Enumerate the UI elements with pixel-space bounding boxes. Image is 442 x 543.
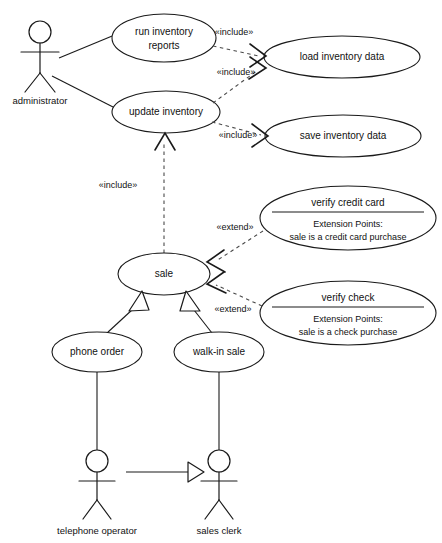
use-case-load-inventory-data[interactable]: load inventory data	[264, 36, 420, 78]
extension-points-title: Extension Points:	[313, 314, 383, 324]
include-line-run-reports-to-load-data	[213, 46, 259, 56]
diagram-canvas: administrator run inventory reports load…	[0, 0, 442, 543]
actor-administrator[interactable]: administrator	[13, 21, 68, 106]
use-case-label: save inventory data	[300, 130, 387, 141]
use-case-phone-order[interactable]: phone order	[52, 332, 142, 372]
use-case-run-inventory-reports[interactable]: run inventory reports	[112, 14, 216, 62]
generalization-arrowhead-walk-in-sale	[180, 291, 200, 311]
stereotype-label-extend-credit-card: «extend»	[216, 222, 253, 232]
extension-points-body: sale is a check purchase	[299, 327, 398, 337]
association-admin-to-run-reports	[59, 34, 117, 58]
use-case-save-inventory-data[interactable]: save inventory data	[265, 115, 421, 157]
use-case-label: verify check	[322, 292, 376, 303]
actor-leg-left	[205, 500, 219, 519]
use-case-verify-credit-card[interactable]: verify credit card Extension Points: sal…	[260, 186, 436, 250]
actor-label-telephone-operator: telephone operator	[57, 525, 137, 536]
include-arrowhead-run-reports	[250, 44, 266, 67]
actor-label-sales-clerk: sales clerk	[197, 525, 242, 536]
actor-leg-left	[25, 73, 40, 92]
use-case-sale[interactable]: sale	[118, 253, 210, 295]
use-case-label: walk-in sale	[192, 346, 246, 357]
actor-leg-right	[97, 500, 111, 519]
include-arrowhead-sale-to-update	[155, 133, 175, 150]
use-case-label: verify credit card	[311, 197, 384, 208]
stereotype-label-include-sale-update: «include»	[99, 180, 138, 190]
actor-leg-right	[219, 500, 233, 519]
extension-points-body: sale is a credit card purchase	[289, 232, 406, 242]
stereotype-label-include-save-inventory: «include»	[219, 130, 258, 140]
actor-head-icon	[29, 21, 51, 43]
use-case-label: update inventory	[129, 106, 203, 117]
use-case-verify-check[interactable]: verify check Extension Points: sale is a…	[260, 281, 436, 345]
use-case-walk-in-sale[interactable]: walk-in sale	[174, 332, 264, 372]
stereotype-label-include-run-reports: «include»	[215, 27, 254, 37]
generalization-arrowhead-phone-order	[129, 291, 149, 311]
actor-label-administrator: administrator	[13, 95, 68, 106]
use-case-ellipse	[112, 14, 216, 62]
generalization-arrowhead-sales-clerk	[188, 462, 204, 482]
extend-arrowhead-credit-card	[207, 250, 225, 272]
actor-head-icon	[86, 450, 108, 472]
use-case-label: phone order	[70, 346, 125, 357]
uml-use-case-diagram: administrator run inventory reports load…	[0, 0, 442, 543]
actor-head-icon	[208, 450, 230, 472]
actor-sales-clerk[interactable]: sales clerk	[197, 450, 242, 536]
stereotype-label-extend-check: «extend»	[214, 304, 251, 314]
generalization-line-phone-order-to-sale	[107, 309, 133, 333]
use-case-label: sale	[155, 268, 174, 279]
actor-telephone-operator[interactable]: telephone operator	[57, 450, 137, 536]
extend-line-verify-check-to-sale	[216, 285, 262, 306]
extend-line-verify-credit-card-to-sale	[216, 231, 263, 261]
actor-leg-left	[83, 500, 97, 519]
use-case-label: load inventory data	[300, 51, 385, 62]
use-case-label-line-1: run inventory	[135, 26, 193, 37]
stereotype-label-include-update-inventory: «include»	[217, 67, 256, 77]
use-case-label-line-2: reports	[148, 40, 179, 51]
generalization-line-walk-in-sale-to-sale	[194, 310, 212, 333]
use-case-update-inventory[interactable]: update inventory	[112, 91, 220, 133]
extension-points-title: Extension Points:	[313, 219, 383, 229]
